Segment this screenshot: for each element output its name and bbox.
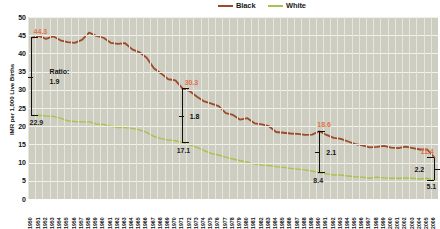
gridline-vertical	[330, 17, 331, 199]
x-tick-label: 1976	[215, 217, 220, 229]
chart-legend: Black White	[0, 0, 440, 14]
x-tick-label: 1952	[43, 217, 48, 229]
legend-label-black: Black	[236, 1, 256, 10]
white-value-2006: 5.1	[426, 183, 436, 190]
y-tick-label: 40	[8, 50, 26, 57]
gridline-vertical	[193, 17, 194, 199]
gridline-vertical	[409, 17, 410, 199]
legend-item-black: Black	[218, 1, 256, 10]
ratio-pointer-1950	[28, 77, 33, 78]
gridline-vertical	[265, 17, 266, 199]
ratio-cap-1971-bottom	[182, 142, 189, 143]
ratio-value-1950: 1.9	[50, 78, 60, 85]
gridline-vertical	[136, 17, 137, 199]
x-tick-label: 1950	[28, 217, 33, 229]
gridline-vertical	[129, 17, 130, 199]
gridline-vertical	[107, 17, 108, 199]
x-tick-label: 1970	[172, 217, 177, 229]
y-tick-label: 5	[8, 177, 26, 184]
x-tick-label: 1953	[50, 217, 55, 229]
x-tick-label: 1979	[237, 217, 242, 229]
gridline-vertical	[244, 17, 245, 199]
gridline-vertical	[337, 17, 338, 199]
x-tick-label: 2002	[402, 217, 407, 229]
gridline-vertical	[424, 17, 425, 199]
ratio-value-1971: 1.8	[190, 113, 200, 120]
black-value-1971: 30.3	[185, 79, 199, 86]
gridline-horizontal	[28, 163, 438, 164]
x-tick-label: 1998	[374, 217, 379, 229]
gridline-vertical	[280, 17, 281, 199]
gridline-vertical	[294, 17, 295, 199]
gridline-vertical	[165, 17, 166, 199]
x-tick-label: 1999	[381, 217, 386, 229]
x-tick-label: 1973	[194, 217, 199, 229]
x-tick-label: 1989	[309, 217, 314, 229]
legend-item-white: White	[268, 1, 306, 10]
ratio-pointer-1990	[315, 152, 320, 153]
x-tick-label: 1972	[187, 217, 192, 229]
x-tick-label: 1995	[352, 217, 357, 229]
x-tick-label: 1961	[108, 217, 113, 229]
gridline-vertical	[316, 17, 317, 199]
gridline-vertical	[402, 17, 403, 199]
gridline-vertical	[237, 17, 238, 199]
legend-swatch-white	[268, 5, 283, 7]
x-tick-label: 1954	[57, 217, 62, 229]
gridline-vertical	[143, 17, 144, 199]
x-tick-label: 1982	[259, 217, 264, 229]
x-tick-label: 1957	[79, 217, 84, 229]
x-tick-label: 2006	[431, 217, 436, 229]
x-tick-label: 1966	[143, 217, 148, 229]
x-tick-label: 1987	[295, 217, 300, 229]
y-tick-label: 50	[8, 14, 26, 21]
x-tick-label: 1983	[266, 217, 271, 229]
white-value-1950: 22.9	[30, 119, 44, 126]
x-tick-label: 1991	[323, 217, 328, 229]
y-tick-label: 35	[8, 68, 26, 75]
gridline-vertical	[28, 17, 29, 199]
x-tick-label: 1955	[64, 217, 69, 229]
gridline-vertical	[64, 17, 65, 199]
imr-line-chart: Black White IMR per 1,000 Live Births 05…	[0, 0, 440, 229]
x-tick-label: 1993	[338, 217, 343, 229]
black-value-1990: 18.6	[317, 121, 331, 128]
gridline-vertical	[35, 17, 36, 199]
x-tick-label: 1997	[366, 217, 371, 229]
gridline-vertical	[42, 17, 43, 199]
x-tick-label: 1965	[136, 217, 141, 229]
gridline-vertical	[122, 17, 123, 199]
x-tick-label: 2003	[410, 217, 415, 229]
x-tick-label: 1968	[158, 217, 163, 229]
y-tick-label: 15	[8, 141, 26, 148]
gridline-horizontal	[28, 108, 438, 109]
ratio-cap-1971-top	[182, 88, 189, 89]
gridline-horizontal	[28, 53, 438, 54]
x-tick-label: 1986	[287, 217, 292, 229]
gridline-vertical	[344, 17, 345, 199]
ratio-pointer-1971	[179, 116, 184, 117]
white-value-1990: 8.4	[313, 177, 323, 184]
gridline-vertical	[215, 17, 216, 199]
x-tick-label: 1981	[251, 217, 256, 229]
gridline-vertical	[150, 17, 151, 199]
gridline-horizontal	[28, 72, 438, 73]
x-tick-label: 1959	[93, 217, 98, 229]
gridline-horizontal	[28, 126, 438, 127]
ratio-pointer-2006	[435, 169, 440, 170]
y-tick-label: 30	[8, 86, 26, 93]
gridline-vertical	[229, 17, 230, 199]
gridline-vertical	[157, 17, 158, 199]
gridline-vertical	[359, 17, 360, 199]
x-tick-label: 1988	[302, 217, 307, 229]
x-tick-label: 1974	[201, 217, 206, 229]
gridline-vertical	[273, 17, 274, 199]
gridline-vertical	[395, 17, 396, 199]
gridline-vertical	[380, 17, 381, 199]
y-tick-label: 45	[8, 32, 26, 39]
ratio-cap-1990-bottom	[318, 172, 325, 173]
gridline-vertical	[57, 17, 58, 199]
x-tick-label: 1990	[316, 217, 321, 229]
x-tick-label: 1962	[115, 217, 120, 229]
x-tick-label: 2004	[417, 217, 422, 229]
